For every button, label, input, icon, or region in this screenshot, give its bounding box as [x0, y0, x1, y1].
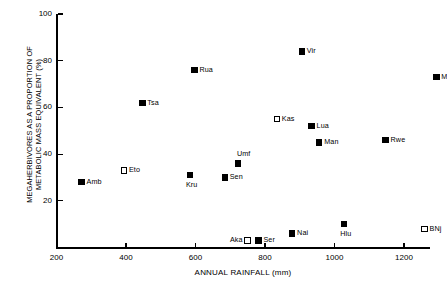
- x-tick-label-600: 600: [176, 254, 216, 262]
- marker-filled-square-icon: [139, 100, 145, 106]
- data-point-label-amb: Amb: [87, 178, 102, 186]
- marker-open-square-icon: [121, 167, 127, 173]
- data-point-label-aka: Aka: [230, 236, 243, 244]
- y-tick-20: [58, 200, 63, 201]
- y-axis-line: [56, 14, 58, 249]
- marker-filled-square-icon: [308, 123, 314, 129]
- x-tick-400: [125, 243, 126, 248]
- data-point-label-vir: Vir: [307, 47, 316, 55]
- y-tick-label-100: 100: [30, 10, 52, 18]
- marker-filled-square-icon: [382, 137, 388, 143]
- x-tick-label-1200: 1200: [384, 254, 424, 262]
- data-point-label-m: M: [441, 73, 447, 81]
- y-axis-title: MEGAHERBIVORES AS A PROPORTION OF METABO…: [25, 29, 44, 219]
- marker-filled-square-icon: [187, 172, 193, 178]
- data-point-label-hlu: Hlu: [340, 230, 351, 238]
- data-point-label-lua: Lua: [317, 122, 329, 130]
- y-tick-100: [58, 13, 63, 14]
- marker-filled-square-icon: [191, 67, 197, 73]
- marker-open-square-icon: [274, 116, 280, 122]
- x-tick-label-200: 200: [37, 254, 77, 262]
- data-point-label-kas: Kas: [282, 115, 295, 123]
- marker-filled-square-icon: [222, 174, 228, 180]
- data-point-label-rwe: Rwe: [391, 136, 406, 144]
- x-axis-title: ANNUAL RAINFALL (mm): [56, 268, 430, 277]
- y-tick-40: [58, 154, 63, 155]
- x-tick-label-1000: 1000: [315, 254, 355, 262]
- data-point-label-bnj: BNj: [430, 225, 442, 233]
- y-tick-80: [58, 60, 63, 61]
- marker-open-square-icon: [244, 237, 250, 243]
- data-point-label-kru: Kru: [186, 181, 198, 189]
- x-tick-label-800: 800: [245, 254, 285, 262]
- x-tick-1000: [334, 243, 335, 248]
- marker-open-square-icon: [421, 226, 427, 232]
- x-tick-200: [56, 243, 57, 248]
- x-tick-1200: [403, 243, 404, 248]
- marker-filled-square-icon: [433, 74, 439, 80]
- marker-filled-square-icon: [299, 48, 305, 54]
- data-point-label-eto: Eto: [129, 166, 140, 174]
- x-tick-label-400: 400: [106, 254, 146, 262]
- data-point-label-ser: Ser: [263, 236, 275, 244]
- x-tick-600: [195, 243, 196, 248]
- x-axis-line: [56, 247, 430, 249]
- y-tick-60: [58, 107, 63, 108]
- marker-filled-square-icon: [255, 237, 261, 243]
- marker-filled-square-icon: [316, 139, 322, 145]
- marker-filled-square-icon: [78, 179, 84, 185]
- data-point-label-man: Man: [324, 138, 338, 146]
- data-point-label-nai: Nai: [297, 229, 308, 237]
- data-point-label-rua: Rua: [199, 66, 213, 74]
- marker-filled-square-icon: [289, 230, 295, 236]
- data-point-label-umf: Umf: [237, 150, 250, 158]
- data-point-label-tsa: Tsa: [147, 99, 158, 107]
- data-point-label-sen: Sen: [230, 173, 243, 181]
- marker-filled-square-icon: [341, 221, 347, 227]
- marker-filled-square-icon: [235, 160, 241, 166]
